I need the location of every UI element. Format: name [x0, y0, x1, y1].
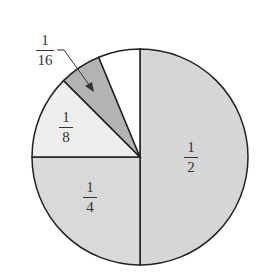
label-half-numerator: 1	[181, 140, 201, 155]
label-sixteenth-numerator: 1	[33, 33, 57, 48]
fraction-bar	[184, 157, 198, 158]
label-quarter-numerator: 1	[80, 180, 100, 195]
label-sixteenth: 1 16	[33, 33, 57, 68]
fraction-bar	[83, 197, 97, 198]
label-eighth: 1 8	[56, 110, 76, 145]
label-eighth-denominator: 8	[56, 130, 76, 145]
label-eighth-numerator: 1	[56, 110, 76, 125]
label-sixteenth-denominator: 16	[33, 53, 57, 68]
fraction-bar	[59, 127, 73, 128]
label-quarter-denominator: 4	[80, 200, 100, 215]
label-quarter: 1 4	[80, 180, 100, 215]
fraction-bar	[36, 50, 54, 51]
label-half-denominator: 2	[181, 160, 201, 175]
label-half: 1 2	[181, 140, 201, 175]
